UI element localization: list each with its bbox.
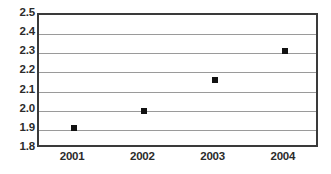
y-axis-tick-label: 2.3 (2, 45, 35, 56)
y-axis-tick-label: 1.8 (2, 141, 35, 152)
gridline (39, 72, 316, 73)
y-axis-tick-label: 2.1 (2, 84, 35, 95)
data-point (71, 125, 77, 131)
y-axis-tick-label: 2.5 (2, 7, 35, 18)
data-point (141, 108, 147, 114)
x-axis-tick-label: 2002 (112, 150, 172, 163)
gridline (39, 130, 316, 131)
gridline (39, 53, 316, 54)
data-point (212, 77, 218, 83)
plot-area (37, 13, 318, 147)
x-axis: 2001200220032004 (37, 150, 318, 170)
data-point (282, 48, 288, 54)
x-axis-tick-label: 2001 (42, 150, 102, 163)
x-axis-tick-label: 2004 (253, 150, 313, 163)
gridline (39, 34, 316, 35)
x-axis-tick-label: 2003 (183, 150, 243, 163)
y-axis-tick-label: 2.0 (2, 103, 35, 114)
gridline (39, 92, 316, 93)
scatter-chart: 2.52.42.32.22.12.01.91.8 200120022003200… (0, 0, 331, 174)
y-axis-tick-label: 2.2 (2, 64, 35, 75)
y-axis-tick-label: 1.9 (2, 122, 35, 133)
gridline (39, 111, 316, 112)
y-axis: 2.52.42.32.22.12.01.91.8 (0, 0, 35, 174)
y-axis-tick-label: 2.4 (2, 26, 35, 37)
